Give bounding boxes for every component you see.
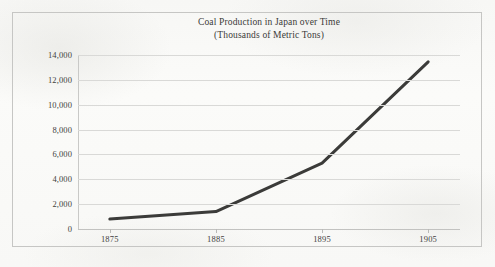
x-tick-1895 — [322, 229, 323, 233]
gridline-6000 — [78, 154, 460, 155]
y-axis-tick-labels: 02,0004,0006,0008,00010,00012,00014,000 — [14, 55, 72, 229]
chart-figure: Coal Production in Japan over Time (Thou… — [0, 0, 495, 267]
chart-title-line-2: (Thousands of Metric Tons) — [78, 29, 460, 42]
gridline-14000 — [78, 55, 460, 56]
gridline-12000 — [78, 80, 460, 81]
x-tick-label-1895: 1895 — [292, 234, 352, 244]
line-series-coal-production — [78, 55, 460, 229]
chart-title: Coal Production in Japan over Time (Thou… — [78, 16, 460, 41]
y-tick-label-12000: 12,000 — [16, 75, 72, 85]
x-axis-tick-labels: 1875188518951905 — [78, 234, 460, 248]
gridline-2000 — [78, 204, 460, 205]
x-tick-label-1885: 1885 — [186, 234, 246, 244]
y-tick-label-10000: 10,000 — [16, 100, 72, 110]
y-tick-label-0: 0 — [16, 224, 72, 234]
x-tick-1875 — [110, 229, 111, 233]
gridline-8000 — [78, 130, 460, 131]
y-tick-label-4000: 4,000 — [16, 174, 72, 184]
y-tick-label-8000: 8,000 — [16, 125, 72, 135]
gridline-10000 — [78, 105, 460, 106]
series-line — [110, 62, 428, 219]
y-tick-label-14000: 14,000 — [16, 50, 72, 60]
gridline-4000 — [78, 179, 460, 180]
x-tick-1905 — [428, 229, 429, 233]
plot-area — [78, 55, 460, 229]
x-tick-label-1905: 1905 — [398, 234, 458, 244]
x-tick-label-1875: 1875 — [80, 234, 140, 244]
chart-title-line-1: Coal Production in Japan over Time — [78, 16, 460, 29]
y-tick-label-6000: 6,000 — [16, 149, 72, 159]
x-tick-1885 — [216, 229, 217, 233]
y-tick-label-2000: 2,000 — [16, 199, 72, 209]
